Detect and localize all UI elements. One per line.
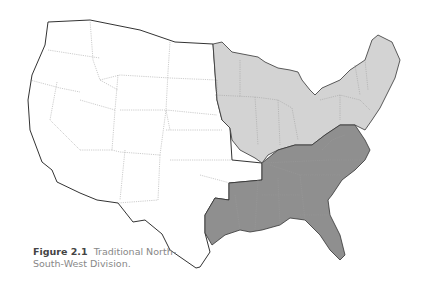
caption-line-1: Traditional North- [94, 246, 176, 257]
figure-label: Figure 2.1 [33, 246, 88, 257]
us-map [0, 0, 433, 286]
figure-caption: Figure 2.1 Traditional North- South-West… [33, 246, 176, 270]
figure: Figure 2.1 Traditional North- South-West… [0, 0, 433, 286]
region-north [213, 35, 400, 163]
caption-line-2: South-West Division. [33, 258, 131, 269]
